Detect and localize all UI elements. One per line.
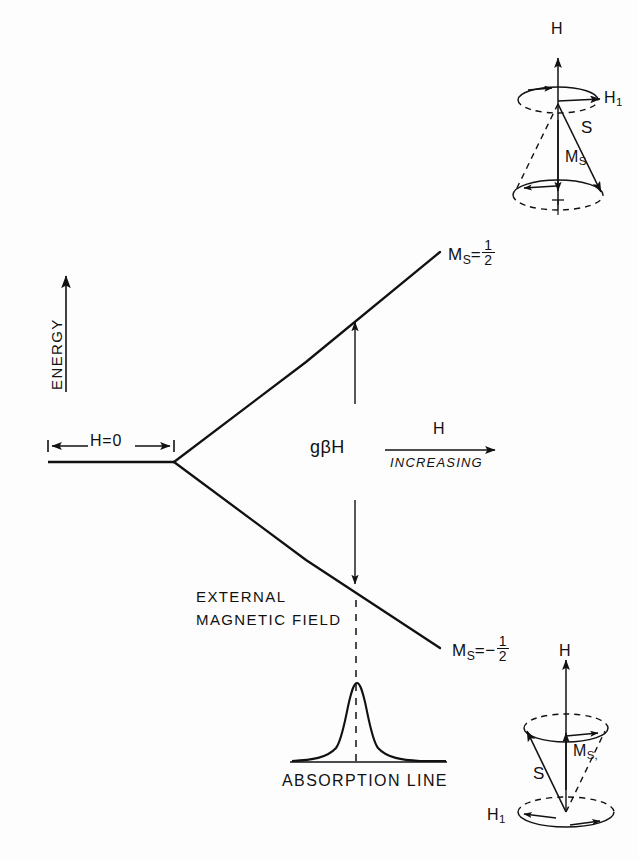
transition-energy-label: gβH: [310, 437, 345, 458]
upper-branch-fraction: 12: [482, 238, 494, 267]
bottom-h-label: H: [559, 642, 571, 660]
external-field-caption-line2: MAGNETIC FIELD: [196, 611, 341, 628]
bottom-h1-label-h: H: [487, 806, 499, 823]
bottom-cone-top-rotation-arrow: [566, 733, 598, 736]
upper-branch-denominator: 2: [482, 253, 494, 267]
absorption-peak-curve: [292, 683, 446, 761]
upper-branch-label-eq: =: [471, 245, 481, 264]
top-ellipse-rotation-arrow: [528, 88, 552, 90]
precession-diagram-bottom: [518, 660, 614, 827]
energy-axis-label: ENERGY: [48, 318, 65, 390]
top-h1-label-h: H: [604, 89, 616, 106]
lower-branch-label-sub: S: [467, 649, 475, 663]
lower-branch-label-eq: =: [475, 641, 485, 660]
upper-branch-label-m: M: [448, 245, 463, 264]
top-h1-label: H1: [604, 89, 622, 108]
figure-canvas: ENERGY H=0 MS=12 MS=−12 gβH H INCREASING…: [0, 0, 638, 859]
top-h1-label-sub: 1: [616, 96, 622, 108]
lower-branch-denominator: 2: [497, 649, 509, 663]
lower-branch-fraction: 12: [497, 634, 509, 663]
top-h-label: H: [551, 20, 563, 38]
upper-branch-ms-plus-half: [174, 252, 440, 462]
top-ms-label: MS: [565, 148, 587, 167]
bottom-h1-label: H1: [487, 806, 505, 825]
top-s-label: S: [581, 118, 593, 138]
zero-field-label: H=0: [90, 432, 122, 450]
precession-diagram-top: [513, 58, 603, 218]
external-field-caption-line1: EXTERNAL: [196, 588, 286, 605]
bottom-ms-label-sub: S,: [587, 749, 598, 761]
top-ms-label-sub: S: [579, 155, 587, 167]
lower-branch-label-sign: −: [485, 641, 495, 660]
lower-branch-numerator: 1: [497, 634, 509, 649]
bottom-ms-label: MS,: [573, 742, 598, 761]
bottom-s-label: S: [533, 764, 545, 784]
upper-branch-label: MS=12: [448, 238, 496, 267]
absorption-line-caption: ABSORPTION LINE: [282, 772, 448, 790]
top-cone-left-edge: [515, 104, 558, 192]
absorption-line-plot: [290, 683, 447, 762]
lower-branch-label: MS=−12: [452, 634, 510, 663]
h-increasing-top-label: H: [433, 420, 445, 438]
h-increasing-bottom-label: INCREASING: [390, 455, 483, 470]
lower-branch-label-m: M: [452, 641, 467, 660]
bottom-ellipse-rotation-arrow-left: [524, 814, 556, 818]
upper-branch-label-sub: S: [463, 253, 471, 267]
bottom-ellipse-solid-half: [518, 812, 614, 827]
top-h1-arrow: [558, 99, 600, 101]
upper-branch-numerator: 1: [482, 238, 494, 253]
top-cone-base-rotation-arrow: [524, 186, 556, 188]
bottom-ms-label-m: M: [573, 742, 587, 759]
zeeman-diagram-graphics: [0, 0, 638, 859]
bottom-h1-label-sub: 1: [499, 813, 505, 825]
top-ms-label-m: M: [565, 148, 579, 165]
